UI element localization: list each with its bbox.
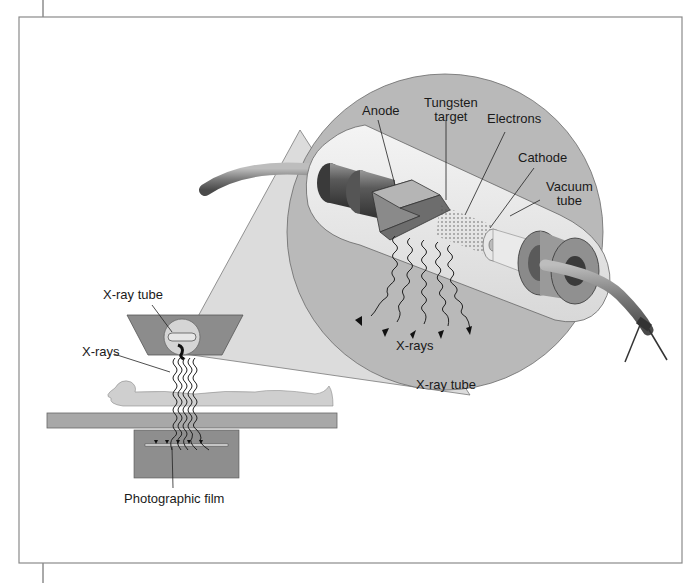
label-anode: Anode: [362, 104, 400, 118]
label-electrons: Electrons: [487, 112, 541, 126]
label-vacuum: Vacuum: [546, 180, 593, 194]
label-photographic-film: Photographic film: [124, 492, 224, 506]
label-tube: tube: [546, 194, 593, 208]
photographic-film: [145, 444, 228, 446]
label-target: target: [424, 110, 478, 124]
label-xray-tube-inset: X-ray tube: [416, 378, 476, 392]
exam-table: [47, 413, 337, 428]
xray-diagram: X-ray tube X-rays Photographic film Anod…: [0, 0, 699, 583]
label-xrays-left: X-rays: [82, 345, 120, 359]
label-xray-tube-left: X-ray tube: [103, 288, 163, 302]
label-xrays-inset: X-rays: [396, 339, 434, 353]
label-tungsten: Tungsten: [424, 96, 478, 110]
label-cathode: Cathode: [518, 151, 567, 165]
film-box: [134, 430, 239, 478]
label-vacuum-tube: Vacuum tube: [546, 180, 593, 208]
patient-silhouette: [108, 381, 333, 406]
label-tungsten-target: Tungsten target: [424, 96, 478, 124]
